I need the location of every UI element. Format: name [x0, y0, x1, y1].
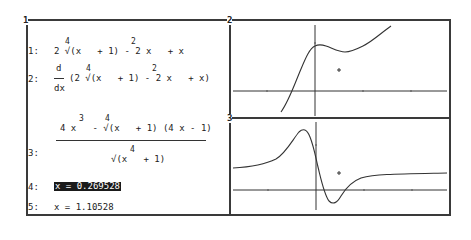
solution-value: x = 1.10528	[54, 203, 114, 212]
algebra-window[interactable]: 1: 4 2 2 √(x + 1) - 2 x + x 2: d dx 4 2 …	[28, 21, 229, 214]
denominator-text: √(x + 1)	[111, 155, 165, 164]
derivative-d: d	[56, 64, 61, 73]
entry-number: 3:	[28, 149, 39, 158]
plot-2-canvas	[231, 21, 449, 117]
crosshair-cursor	[337, 171, 341, 175]
crosshair-cursor	[337, 68, 341, 72]
exponent: 4	[86, 65, 91, 73]
exponent: 2	[131, 38, 136, 46]
exponent: 2	[152, 65, 157, 73]
plot-window-3[interactable]	[231, 119, 449, 214]
derivative-dx: dx	[54, 84, 65, 93]
exponent: 4	[105, 115, 110, 123]
plot-window-2[interactable]	[231, 21, 449, 117]
exponent: 4	[65, 38, 70, 46]
expression-text: 2 √(x + 1) - 2 x + x	[54, 47, 184, 56]
frame-bottom-border	[27, 214, 451, 216]
axis-ticks	[268, 145, 412, 191]
numerator-text: 4 x - √(x + 1) (4 x - 1)	[60, 124, 212, 133]
solution-value-selected[interactable]: x = 0.269528	[54, 182, 121, 191]
curve-derivative	[233, 130, 447, 203]
derivative-fraction-bar	[54, 78, 64, 79]
curve-expression-1	[281, 26, 391, 112]
exponent: 3	[79, 115, 84, 123]
exponent: 4	[130, 146, 135, 154]
entry-number: 2:	[28, 75, 39, 84]
plot-3-canvas	[231, 119, 449, 214]
entry-number: 5:	[28, 203, 39, 212]
entry-number: 4:	[28, 183, 39, 192]
expression-text: (2 √(x + 1) - 2 x + x)	[69, 74, 210, 83]
entry-number: 1:	[28, 47, 39, 56]
fraction-bar	[56, 140, 206, 141]
